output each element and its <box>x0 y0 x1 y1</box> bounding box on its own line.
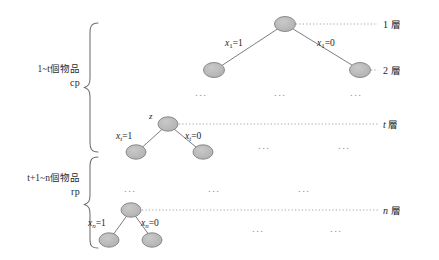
node-right-mid <box>193 145 213 159</box>
ellipsis-r4-c2: ... <box>330 222 342 234</box>
node-right-top <box>350 63 371 78</box>
diagram-canvas: 1~t個物品 cp t+1~n個物品 rp z x1=1 x1=0 xt=1 x… <box>0 0 439 260</box>
layer-unit-2: 層 <box>391 65 401 76</box>
group-name-cp: cp <box>8 76 80 90</box>
edge-label-xn-eq-1: xn=1 <box>88 218 106 228</box>
ellipsis-r2-c1: ... <box>258 139 270 151</box>
group-label-rp: t+1~n個物品 rp <box>2 172 80 199</box>
ellipsis-r1-c1: ... <box>195 86 207 98</box>
layer-unit-n: 層 <box>391 205 401 216</box>
layer-label-2: 2 層 <box>383 63 401 77</box>
ellipsis-r1-c3: ... <box>350 86 362 98</box>
edge-label-xt-eq-1: xt=1 <box>116 131 132 141</box>
edge-label-xt-eq-0: xt=0 <box>185 131 201 141</box>
layer-label-n: n 層 <box>383 203 401 217</box>
node-left-mid <box>126 145 146 159</box>
ellipsis-r2-c2: ... <box>338 139 350 151</box>
node-root-mid <box>158 117 178 131</box>
layer-label-1: 1 層 <box>383 17 401 31</box>
layer-index-n: n <box>383 205 388 216</box>
ellipsis-r4-c1: ... <box>252 222 264 234</box>
ellipsis-r1-c2: ... <box>274 86 286 98</box>
diagram-svg <box>0 0 439 260</box>
group-name-rp: rp <box>2 185 80 199</box>
brace-rp <box>85 157 99 248</box>
edge-label-x1-eq-0: x1=0 <box>317 38 335 48</box>
node-root-bot <box>121 203 141 217</box>
node-left-top <box>204 63 225 78</box>
layer-index-t: t <box>383 119 386 130</box>
node-right-bot <box>142 233 162 247</box>
edge-label-xn-eq-0: xn=0 <box>141 218 159 228</box>
ellipsis-r3-c2: ... <box>208 182 220 194</box>
group-range-rp: t+1~n個物品 <box>2 172 80 185</box>
group-label-cp: 1~t個物品 cp <box>8 63 80 90</box>
ellipsis-r3-c1: ... <box>124 182 136 194</box>
node-left-bot <box>99 233 119 247</box>
ellipsis-r3-c3: ... <box>298 182 310 194</box>
edge-label-x1-eq-1: x1=1 <box>225 38 243 48</box>
layer-unit-t: 層 <box>388 119 398 130</box>
layer-index-1: 1 <box>383 19 388 30</box>
node-label-z: z <box>149 111 153 121</box>
layer-label-t: t 層 <box>383 117 398 131</box>
layer-index-2: 2 <box>383 65 388 76</box>
layer-unit-1: 層 <box>391 19 401 30</box>
brace-cp <box>85 23 99 152</box>
group-range-cp: 1~t個物品 <box>8 63 80 76</box>
node-root-top <box>275 17 296 32</box>
